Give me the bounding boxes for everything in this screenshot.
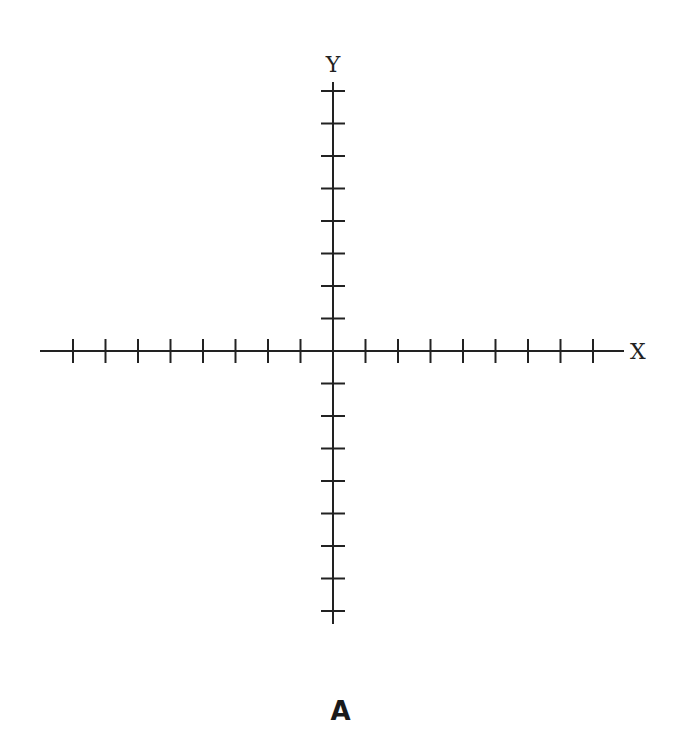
coordinate-plane: Y X bbox=[0, 0, 681, 680]
y-axis-label: Y bbox=[325, 52, 341, 77]
x-axis-label: X bbox=[630, 339, 646, 364]
figure-caption: A bbox=[0, 696, 681, 726]
